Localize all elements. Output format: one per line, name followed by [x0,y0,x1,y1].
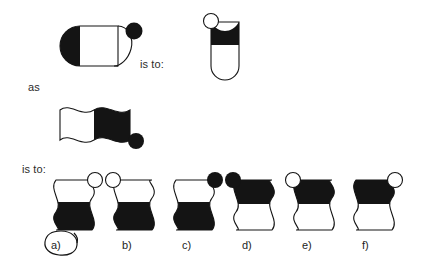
outline-ball [88,173,103,188]
puzzle-canvas: is to: as is to: [0,0,426,271]
is-to-label-top: is to: [140,58,164,70]
target-shape-a [196,8,250,90]
option-f-shape[interactable] [344,172,416,234]
answer-selection-ellipse [41,228,81,262]
outline-ball [388,173,403,188]
as-label: as [28,81,40,93]
option-b-label: b) [122,239,132,251]
filled-ball [225,172,241,188]
option-d-label: d) [242,239,252,251]
source-shape-b [56,100,154,152]
outline-ball [204,14,219,29]
option-f-label: f) [362,239,369,251]
filled-ball [207,172,223,188]
filled-ball [126,23,143,40]
option-e-label: e) [302,239,312,251]
option-a-label: a) [51,239,61,251]
filled-ball [128,133,144,149]
outline-ball [106,173,121,188]
capsule-body [58,25,118,67]
outline-ball [286,173,301,188]
is-to-label-bottom: is to: [22,163,46,175]
source-shape-a [58,22,148,70]
option-c-label: c) [182,239,191,251]
